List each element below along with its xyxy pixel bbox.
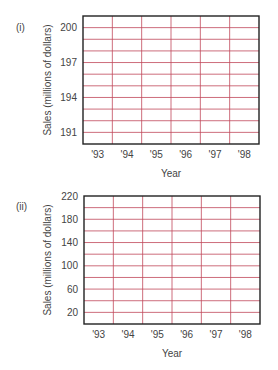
y-tick-label: 197 xyxy=(60,57,77,68)
panel-label: (ii) xyxy=(16,201,27,212)
y-tick-label: 20 xyxy=(67,307,79,318)
y-axis-label: Sales (millions of dollars) xyxy=(42,204,53,315)
y-axis-label: Sales (millions of dollars) xyxy=(42,24,53,135)
x-axis-label: Year xyxy=(162,348,183,359)
y-tick-label: 200 xyxy=(60,22,77,33)
x-tick-label: '95 xyxy=(151,329,164,340)
x-tick-label: '94 xyxy=(121,329,134,340)
x-axis-label: Year xyxy=(161,168,182,179)
x-tick-label: '96 xyxy=(179,149,192,160)
x-tick-label: '97 xyxy=(209,329,222,340)
y-tick-label: 194 xyxy=(60,92,77,103)
y-tick-label: 60 xyxy=(67,284,79,295)
x-tick-label: '95 xyxy=(150,149,163,160)
y-tick-label: 100 xyxy=(61,260,78,271)
charts-canvas: 191194197200'93'94'95'96'97'98YearSales … xyxy=(0,0,278,370)
y-tick-label: 191 xyxy=(60,127,77,138)
y-tick-label: 180 xyxy=(61,214,78,225)
x-tick-label: '97 xyxy=(208,149,221,160)
y-tick-label: 220 xyxy=(61,191,78,202)
x-tick-label: '93 xyxy=(91,149,104,160)
chart-panel-2: 2060100140180220'93'94'95'96'97'98YearSa… xyxy=(16,191,260,360)
x-tick-label: '98 xyxy=(238,149,251,160)
x-tick-label: '96 xyxy=(180,329,193,340)
x-tick-label: '93 xyxy=(92,329,105,340)
x-tick-label: '94 xyxy=(120,149,133,160)
chart-panel-1: 191194197200'93'94'95'96'97'98YearSales … xyxy=(16,16,259,179)
x-tick-label: '98 xyxy=(239,329,252,340)
y-tick-label: 140 xyxy=(61,237,78,248)
panel-label: (i) xyxy=(16,22,25,33)
